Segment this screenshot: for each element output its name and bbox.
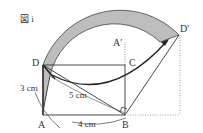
arc-lower bbox=[50, 76, 125, 113]
label-d-prime: D′ bbox=[180, 24, 189, 34]
measure-ad: 3 cm bbox=[20, 84, 38, 93]
shaded-band bbox=[43, 10, 179, 76]
diagonal-bd-prime bbox=[125, 35, 179, 115]
label-d: D bbox=[32, 58, 39, 68]
label-a-prime: A′ bbox=[113, 38, 122, 48]
label-a: A bbox=[38, 120, 45, 130]
label-c: C bbox=[129, 58, 136, 68]
measure-bd: 5 cm bbox=[69, 91, 87, 100]
label-b: B bbox=[122, 120, 129, 130]
measure-ab: 4 cm bbox=[78, 120, 96, 129]
figure-title: 図 i bbox=[20, 15, 34, 24]
